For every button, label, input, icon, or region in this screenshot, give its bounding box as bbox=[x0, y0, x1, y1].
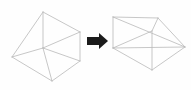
left-shape-triangular-prism bbox=[12, 12, 80, 81]
arrow-right-icon bbox=[87, 33, 108, 49]
left-edge-a-b bbox=[12, 12, 43, 57]
right-edge-r-s bbox=[113, 48, 152, 70]
right-edge-u-q bbox=[152, 18, 158, 31]
right-shape-triangular-prism bbox=[113, 17, 185, 70]
left-edge-e-a bbox=[12, 57, 52, 81]
right-edge-t-q bbox=[158, 18, 185, 47]
right-edge-s-t bbox=[152, 47, 185, 70]
geometry-figure bbox=[0, 0, 191, 90]
diagram-canvas bbox=[0, 0, 191, 90]
right-edge-u-r bbox=[113, 31, 152, 48]
right-edge-p-q bbox=[113, 17, 158, 18]
transformation-arrow bbox=[87, 33, 108, 49]
right-edge-r-t bbox=[113, 47, 185, 48]
left-edge-f-e bbox=[52, 61, 80, 81]
left-edge-b-c bbox=[43, 12, 80, 32]
left-edge-d-f bbox=[43, 48, 80, 61]
left-edge-a-d bbox=[12, 48, 43, 57]
left-edge-d-c bbox=[43, 32, 80, 48]
